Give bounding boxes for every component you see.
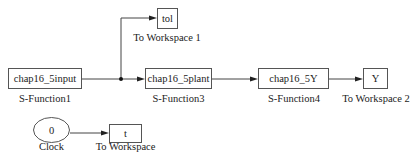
block-s-function1[interactable]: chap16_5input S-Function1	[9, 69, 82, 105]
block-text: chap16_5plant	[148, 73, 210, 84]
arrow-head-icon	[137, 77, 145, 82]
block-diagram-canvas: chap16_5input S-Function1 tol To Workspa…	[0, 0, 415, 160]
block-label: S-Function4	[268, 93, 321, 104]
block-clock[interactable]: 0 Clock	[34, 118, 70, 153]
block-s-function4[interactable]: chap16_5Y S-Function4	[259, 69, 329, 105]
block-text: t	[124, 128, 127, 139]
block-to-workspace-1[interactable]: tol To Workspace 1	[133, 9, 201, 44]
block-text: 0	[49, 125, 54, 136]
block-to-workspace[interactable]: t To Workspace	[96, 125, 156, 153]
block-text: tol	[162, 13, 173, 24]
block-label: To Workspace	[96, 141, 156, 152]
block-label: S-Function1	[19, 93, 71, 104]
arrow-head-icon	[149, 16, 157, 21]
block-label: To Workspace 1	[133, 32, 201, 43]
block-text: Y	[372, 73, 380, 84]
arrow-head-icon	[101, 131, 109, 136]
block-s-function3[interactable]: chap16_5plant S-Function3	[146, 69, 212, 105]
block-text: chap16_5input	[14, 73, 76, 84]
block-label: S-Function3	[153, 93, 205, 104]
block-label: Clock	[39, 141, 65, 152]
arrow-head-icon	[355, 77, 363, 82]
block-text: chap16_5Y	[269, 73, 318, 84]
block-label: To Workspace 2	[342, 93, 410, 104]
block-to-workspace-2[interactable]: Y To Workspace 2	[342, 69, 410, 105]
arrow-head-icon	[250, 77, 258, 82]
branch-junction-dot	[119, 77, 123, 81]
